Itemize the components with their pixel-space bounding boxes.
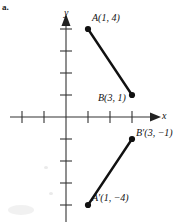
point-b [129,92,135,98]
point-label-b: B(3, 1) [98,92,126,103]
x-axis-arrow-icon [150,113,161,122]
point-a-prime [85,202,91,208]
segment-ab-line [88,29,132,95]
point-label-a-prime: A′(1, −4) [92,192,129,203]
x-axis-label: x [162,110,166,121]
segment-ab [88,29,132,95]
plot-canvas [0,0,175,222]
point-b-prime [129,136,135,142]
point-label-b-prime: B′(3, −1) [136,127,173,138]
coordinate-plane-figure: a. [0,0,175,222]
point-a [85,26,91,32]
y-axis-label: y [64,7,68,18]
point-label-a: A(1, 4) [92,12,120,23]
